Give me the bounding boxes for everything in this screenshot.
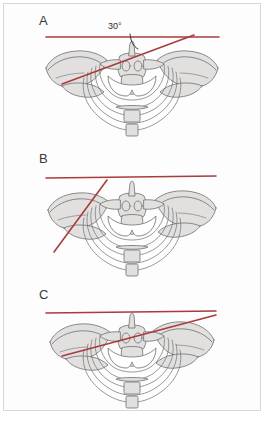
- panel-label-b: B: [39, 152, 48, 165]
- panel-label-a: A: [39, 14, 48, 27]
- panel-b: B: [4, 144, 260, 280]
- angle-measurement-label-a: 30°: [108, 22, 122, 31]
- horizontal-reference-line-c: [46, 311, 216, 313]
- panel-label-c: C: [39, 288, 49, 301]
- horizontal-reference-line-b: [46, 176, 216, 178]
- figure-frame: A 30°: [3, 3, 261, 411]
- panel-a: A 30°: [4, 6, 260, 142]
- panel-c: C: [4, 280, 260, 411]
